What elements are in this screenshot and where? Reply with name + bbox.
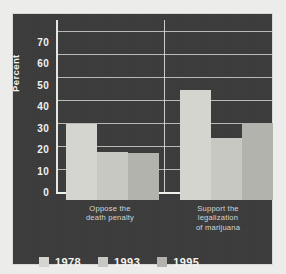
bar-1995-group-2	[242, 123, 273, 200]
category-label-line: death penalty	[56, 213, 164, 222]
y-axis-title: Percent	[10, 54, 21, 92]
plot-inner	[56, 20, 272, 200]
chart-panel: 70 60 50 40 30 20 10 0 Percent Oppose th…	[13, 14, 272, 264]
bar-1978-group-2	[180, 90, 211, 200]
legend-swatch-icon	[39, 257, 49, 267]
y-axis-tick-labels: 70 60 50 40 30 20 10 0	[13, 20, 53, 200]
y-axis-line	[56, 20, 58, 192]
legend-swatch-icon	[98, 257, 108, 267]
y-tick-20: 20	[37, 144, 49, 155]
bar-1995-group-1	[128, 153, 159, 200]
y-tick-10: 10	[37, 165, 49, 176]
y-tick-30: 30	[37, 122, 49, 133]
category-label-line: Oppose the	[56, 204, 164, 213]
chart-legend: 197819931995	[39, 254, 259, 270]
legend-label: 1995	[173, 256, 199, 268]
category-label-1: Oppose thedeath penalty	[56, 204, 164, 223]
category-label-2: Support thelegalizationof marijuana	[164, 204, 272, 232]
x-axis-category-labels: Oppose thedeath penaltySupport thelegali…	[56, 204, 272, 248]
plot-area	[56, 20, 272, 200]
y-tick-70: 70	[37, 37, 49, 48]
bar-1993-group-2	[211, 138, 242, 200]
category-label-line: Support the	[164, 204, 272, 213]
legend-label: 1978	[55, 256, 81, 268]
bar-1993-group-1	[97, 152, 128, 200]
group-divider	[164, 20, 165, 192]
category-label-line: of marijuana	[164, 223, 272, 232]
y-tick-50: 50	[37, 79, 49, 90]
legend-item-1995[interactable]: 1995	[157, 256, 199, 268]
y-tick-40: 40	[37, 101, 49, 112]
y-tick-0: 0	[43, 187, 49, 198]
legend-item-1978[interactable]: 1978	[39, 256, 81, 268]
legend-label: 1993	[114, 256, 140, 268]
category-label-line: legalization	[164, 213, 272, 222]
y-tick-60: 60	[37, 58, 49, 69]
bar-1978-group-1	[66, 124, 97, 200]
legend-swatch-icon	[157, 257, 167, 267]
legend-item-1993[interactable]: 1993	[98, 256, 140, 268]
chart-page: 70 60 50 40 30 20 10 0 Percent Oppose th…	[0, 0, 286, 274]
